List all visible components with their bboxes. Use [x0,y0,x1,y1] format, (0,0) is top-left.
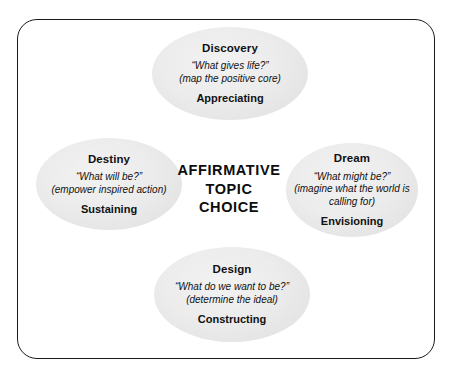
center-label-line-1: AFFIRMATIVE [178,161,281,180]
node-design-question: “What do we want to be?” [175,281,289,294]
node-dream[interactable]: Dream “What might be?” (imagine what the… [286,143,418,237]
node-discovery-question: “What gives life?” [191,60,268,73]
node-discovery-title: Discovery [202,42,258,55]
diagram-canvas: Discovery “What gives life?” (map the po… [0,0,452,378]
node-discovery-detail: (map the positive core) [179,73,281,86]
center-label-line-3: CHOICE [199,198,259,217]
node-destiny-detail: (empower inspired action) [51,184,166,197]
node-destiny-action: Sustaining [81,203,137,216]
node-design-title: Design [213,263,252,276]
node-destiny-title: Destiny [88,153,130,166]
node-dream-action: Envisioning [321,215,383,228]
node-design-action: Constructing [198,313,266,326]
node-dream-detail: (imagine what the world is calling for) [286,183,418,209]
node-destiny-question: “What will be?” [76,171,142,184]
center-label-line-2: TOPIC [205,180,252,199]
node-design-detail: (determine the ideal) [186,294,278,307]
node-dream-question: “What might be?” [314,171,391,184]
node-discovery[interactable]: Discovery “What gives life?” (map the po… [152,27,308,120]
node-dream-title: Dream [334,152,370,165]
center-label: AFFIRMATIVE TOPIC CHOICE [166,154,292,224]
node-destiny[interactable]: Destiny “What will be?” (empower inspire… [36,138,182,230]
node-discovery-action: Appreciating [196,92,263,105]
node-design[interactable]: Design “What do we want to be?” (determi… [154,247,310,342]
